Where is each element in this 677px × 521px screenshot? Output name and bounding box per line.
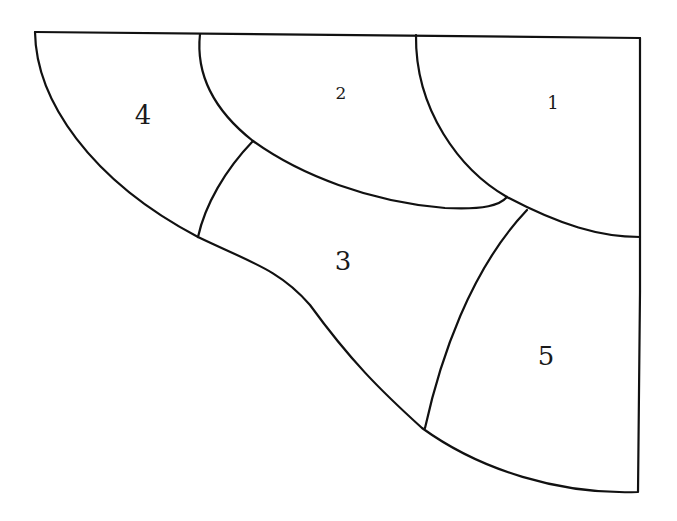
region-label-2: 2 — [336, 85, 347, 102]
region-label-3: 3 — [335, 248, 352, 274]
region-label-4: 4 — [135, 102, 152, 128]
boundary-2-3 — [253, 141, 507, 208]
boundary-1-5 — [507, 197, 640, 237]
outer-left-arc — [35, 32, 198, 237]
boundary-3-5 — [425, 210, 527, 428]
region-label-5: 5 — [538, 343, 555, 369]
boundary-4-2 — [199, 34, 253, 141]
boundary-4-3 — [198, 141, 253, 237]
outer-top-edge — [35, 32, 640, 38]
outer-lower-curve — [198, 237, 640, 492]
boundary-2-1 — [416, 35, 507, 197]
region-label-1: 1 — [547, 94, 558, 112]
